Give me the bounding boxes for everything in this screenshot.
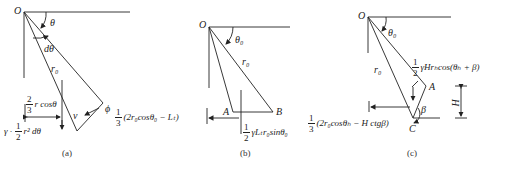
fig-b-angle-label: θ₀ xyxy=(235,35,243,45)
fig-c-height-label: H xyxy=(451,99,461,106)
fig-b-caption: (b) xyxy=(240,148,251,158)
fig-a-weight-formula: γ · 12 r² dθ xyxy=(4,121,41,142)
diagram-canvas xyxy=(0,0,514,169)
fig-c-origin-label: O xyxy=(358,11,365,21)
fig-c-beta-label: β xyxy=(421,105,426,115)
fig-b-point-a-label: A xyxy=(223,107,229,117)
fig-a-angle-label: θ xyxy=(50,18,55,28)
fig-c-angle-label: θ₀ xyxy=(388,28,396,38)
fig-a-caption: (a) xyxy=(62,148,72,158)
figure-b-lines xyxy=(207,27,290,134)
fig-a-origin-label: O xyxy=(14,6,21,16)
fig-a-dangle-label: dθ xyxy=(44,44,54,54)
fig-c-point-a-label: A xyxy=(429,82,435,92)
fig-b-radius-label: r₀ xyxy=(242,57,249,67)
fig-a-radius-label: r₀ xyxy=(51,64,58,74)
fig-a-arm-formula: 23 r cosθ xyxy=(26,94,57,115)
fig-b-point-b-label: B xyxy=(276,107,282,117)
fig-c-point-c-label: C xyxy=(409,124,416,134)
fig-c-force-formula: 12 γHrₕcos(θₕ + β) xyxy=(412,57,480,78)
fig-b-origin-label: O xyxy=(199,20,206,30)
fig-c-caption: (c) xyxy=(407,148,417,158)
fig-a-v-label: v xyxy=(73,111,77,121)
fig-b-arm-formula: 13 (2r₀cosθ₀ − Lₜ) xyxy=(115,107,179,128)
fig-a-phi-label: ϕ xyxy=(105,104,110,114)
fig-b-force-formula: 12 γLₜr₀sinθ₀ xyxy=(243,122,288,143)
fig-c-radius-label: r₀ xyxy=(374,65,381,75)
fig-c-arm-formula: 13 (2r₀cosθₕ − H ctgβ) xyxy=(308,113,389,134)
